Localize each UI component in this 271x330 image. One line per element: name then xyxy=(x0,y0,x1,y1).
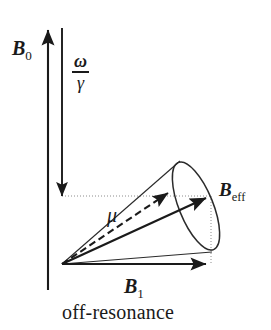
b1-symbol: B xyxy=(124,275,137,297)
omega-gamma-label: ω γ xyxy=(72,52,89,92)
omega-symbol: ω xyxy=(72,52,89,71)
beff-symbol: B xyxy=(219,179,232,200)
beff-subscript: eff xyxy=(232,190,246,204)
mu-label: μ xyxy=(107,205,117,225)
b0-label: B0 xyxy=(12,38,32,62)
b1-label: B1 xyxy=(124,276,144,300)
cone-base-ellipse xyxy=(163,156,230,256)
gamma-symbol: γ xyxy=(72,73,89,92)
cone-upper-edge xyxy=(62,161,180,264)
b0-symbol: B xyxy=(12,37,25,59)
b0-subscript: 0 xyxy=(25,48,32,63)
figure-caption: off-resonance xyxy=(62,302,174,322)
off-resonance-field-diagram: B0 ω γ μ Beff B1 off-resonance xyxy=(0,0,271,330)
precession-cone xyxy=(62,156,229,264)
beff-label: Beff xyxy=(219,180,245,203)
b1-subscript: 1 xyxy=(137,286,144,301)
